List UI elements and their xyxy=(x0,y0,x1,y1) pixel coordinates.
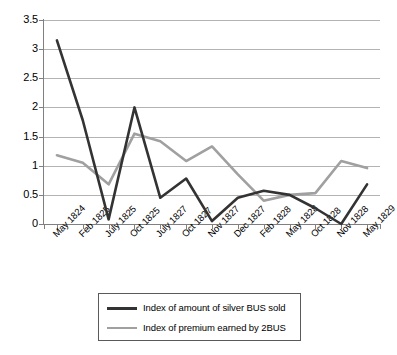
y-axis-tick-label: 2 xyxy=(0,101,38,112)
y-axis-tick-label: 0 xyxy=(0,218,38,229)
x-axis-tick-mark xyxy=(44,224,45,229)
gridline xyxy=(44,107,380,108)
y-axis-tick-label: 1 xyxy=(0,160,38,171)
y-axis-tick-label: 3.5 xyxy=(0,14,38,25)
legend-label-premium: Index of premium earned by 2BUS xyxy=(143,323,286,333)
y-axis-tick-label: 2.5 xyxy=(0,72,38,83)
gridline xyxy=(44,166,380,167)
gridline xyxy=(44,49,380,50)
legend-item-premium: Index of premium earned by 2BUS xyxy=(107,320,286,336)
legend-label-silver-sold: Index of amount of silver BUS sold xyxy=(143,303,285,313)
plot-area xyxy=(44,20,380,224)
legend-swatch-premium xyxy=(107,327,137,329)
y-axis-tick-mark xyxy=(39,78,44,79)
legend-item-silver-sold: Index of amount of silver BUS sold xyxy=(107,300,285,316)
chart-legend: Index of amount of silver BUS sold Index… xyxy=(98,293,301,341)
y-axis-labels: 00.511.522.533.5 xyxy=(0,0,40,355)
y-axis-tick-mark xyxy=(39,195,44,196)
y-axis-tick-mark xyxy=(39,49,44,50)
y-axis-tick-mark xyxy=(39,107,44,108)
gridline xyxy=(44,195,380,196)
y-axis-tick-mark xyxy=(39,137,44,138)
y-axis-tick-label: 0.5 xyxy=(0,189,38,200)
gridline xyxy=(44,137,380,138)
y-axis-tick-label: 3 xyxy=(0,43,38,54)
y-axis-tick-mark xyxy=(39,20,44,21)
y-axis-tick-label: 1.5 xyxy=(0,131,38,142)
legend-swatch-silver-sold xyxy=(107,307,137,310)
y-axis-tick-mark xyxy=(39,166,44,167)
gridline xyxy=(44,20,380,21)
gridline xyxy=(44,78,380,79)
